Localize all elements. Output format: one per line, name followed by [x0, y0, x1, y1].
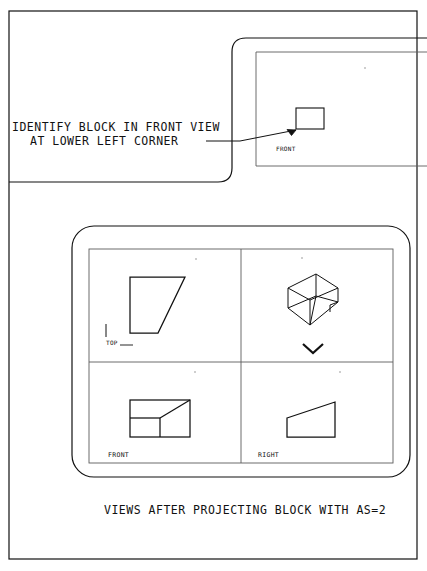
- annotation-line-1: IDENTIFY BLOCK IN FRONT VIEW: [12, 120, 220, 134]
- isometric-view-shape: [288, 274, 338, 325]
- iso-edge-11: [316, 296, 338, 302]
- front-view-shape: [130, 400, 190, 437]
- detail-view-label-front: FRONT: [276, 145, 296, 152]
- four-view-projection-panel: [72, 226, 410, 477]
- iso-edge-6: [288, 288, 310, 300]
- rectangle-block-icon: [296, 108, 324, 129]
- detail-panel-outline: [9, 38, 427, 182]
- top-view-trapezoid: [130, 277, 185, 333]
- iso-edge-1: [288, 274, 316, 288]
- quadrant-label-top: TOP: [106, 339, 118, 346]
- top-view-shape: [106, 277, 185, 345]
- quadrant-dot-front: [194, 371, 195, 372]
- quadrant-label-right: RIGHT: [258, 451, 279, 459]
- iso-edge-13: [288, 296, 316, 308]
- quadrant-dot-iso: [301, 257, 302, 258]
- front-view-detail-panel: [9, 38, 427, 182]
- iso-edge-2: [316, 274, 338, 288]
- right-view-shape: [287, 402, 335, 437]
- right-view-trapezoid: [287, 402, 335, 437]
- drawing-canvas: IDENTIFY BLOCK IN FRONT VIEW AT LOWER LE…: [0, 0, 427, 571]
- front-view-diagonal: [160, 400, 190, 418]
- chevron-down-icon: [303, 344, 323, 353]
- arrow-icon: [287, 130, 296, 136]
- caption: VIEWS AFTER PROJECTING BLOCK WITH AS=2: [104, 503, 386, 517]
- technical-drawing-svg: [0, 0, 427, 571]
- annotation-line-2: AT LOWER LEFT CORNER: [30, 134, 178, 148]
- detail-tick-dot: [364, 67, 365, 68]
- quadrant-label-front: FRONT: [108, 451, 129, 459]
- iso-edge-4: [288, 308, 310, 325]
- quadrant-dot-right: [339, 371, 340, 372]
- quadrant-dot-top: [195, 258, 196, 259]
